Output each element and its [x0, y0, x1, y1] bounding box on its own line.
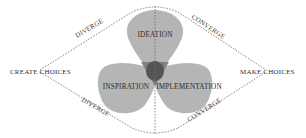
label-ideation: IDEATION	[137, 31, 173, 39]
label-create-choices: CREATE CHOICES	[10, 68, 71, 76]
edge-top-right-line	[178, 12, 266, 70]
design-thinking-diagram: IDEATION INSPIRATION IMPLEMENTATION CREA…	[0, 0, 306, 138]
label-implementation: IMPLEMENTATION	[156, 83, 222, 91]
label-diverge-top: DIVERGE	[74, 17, 104, 39]
label-converge-top: CONVERGE	[190, 13, 226, 40]
label-make-choices: MAKE CHOICES	[240, 68, 295, 76]
label-inspiration: INSPIRATION	[103, 83, 150, 91]
